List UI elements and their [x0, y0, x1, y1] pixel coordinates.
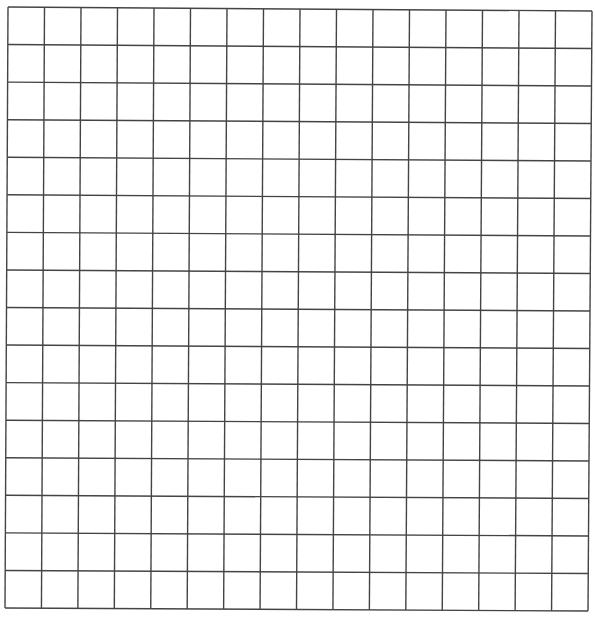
grid-paper — [0, 0, 595, 617]
